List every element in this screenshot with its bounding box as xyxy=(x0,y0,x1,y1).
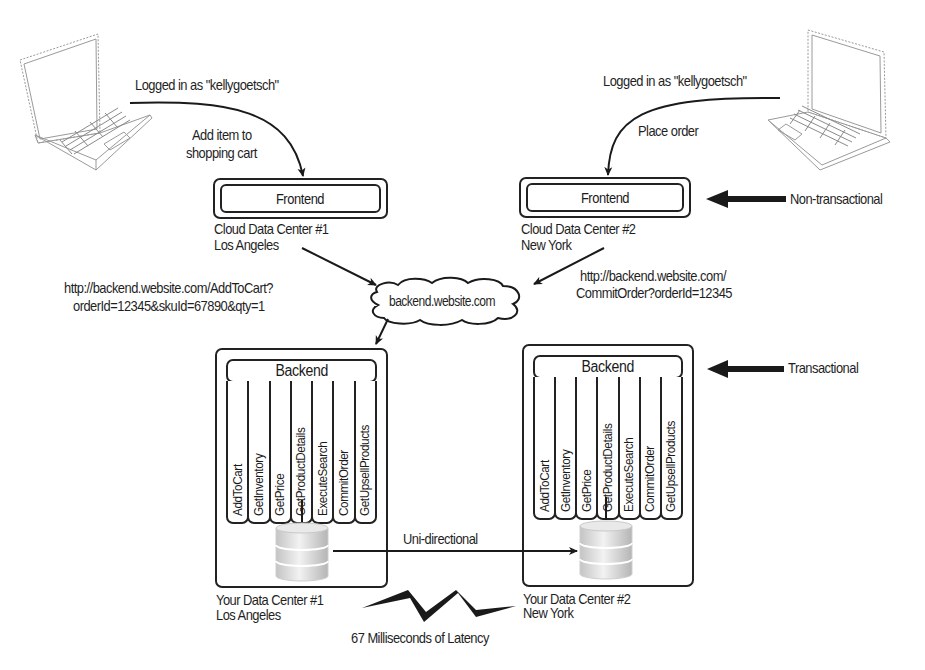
replication-label: Uni-directional xyxy=(403,531,478,547)
database-layer xyxy=(0,0,925,670)
latency-label: 67 Milliseconds of Latency xyxy=(351,630,489,646)
database-icon-dc1 xyxy=(276,523,328,581)
database-icon-dc2 xyxy=(580,521,632,579)
